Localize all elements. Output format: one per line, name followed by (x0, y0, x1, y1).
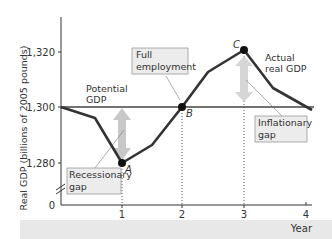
y-tick-1280: 1,280 (26, 158, 55, 169)
x-tick-3: 3 (241, 209, 247, 220)
recessionary-gap-label-1: Recessionary (69, 169, 132, 180)
potential-gdp-label-2: GDP (86, 94, 107, 105)
x-tick-2: 2 (179, 209, 185, 220)
point-b-label: B (186, 108, 193, 119)
inflationary-gap-arrow (235, 56, 253, 102)
point-c (240, 46, 248, 54)
actual-gdp-label-2: real GDP (265, 63, 307, 74)
potential-gdp-label-1: Potential (86, 83, 128, 94)
full-employment-label-1: Full (136, 49, 152, 60)
point-b (178, 103, 186, 111)
x-tick-4: 4 (303, 209, 309, 220)
recessionary-gap-label-2: gap (69, 181, 87, 192)
actual-gdp-label-1: Actual (265, 52, 295, 63)
y-tick-1300: 1,300 (26, 102, 55, 113)
y-tick-1320: 1,320 (26, 47, 55, 58)
y-tick-0: 0 (49, 200, 55, 211)
point-c-label: C (233, 39, 240, 50)
gdp-chart: Real GDP (billions of 2005 pounds) 1,320… (0, 0, 332, 239)
inflationary-gap-label-2: gap (258, 129, 276, 140)
y-axis-label: Real GDP (billions of 2005 pounds) (18, 46, 29, 211)
x-axis-label: Year (290, 223, 313, 234)
x-tick-1: 1 (119, 209, 125, 220)
inflationary-gap-label-1: Inflationary (258, 117, 313, 128)
full-employment-label-2: employment (136, 61, 196, 72)
